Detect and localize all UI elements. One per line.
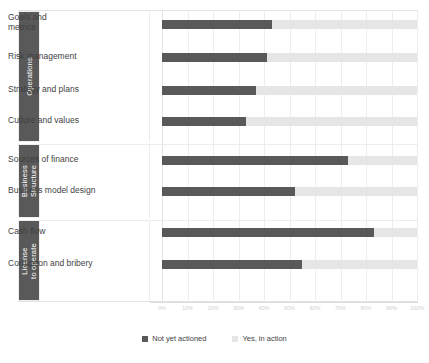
x-tick-label: 50% (284, 305, 295, 311)
x-tick-label: 40% (258, 305, 269, 311)
row-label: Culture and values (8, 115, 79, 125)
bar-segment-not-yet-actioned (162, 228, 374, 237)
bar-row (162, 117, 417, 126)
bar-row (162, 20, 417, 29)
row-label: Sources of finance (8, 154, 78, 164)
row-label: Business model design (8, 185, 95, 195)
gridline-100 (417, 10, 418, 302)
x-tick-label: 10% (182, 305, 193, 311)
group-separator (40, 220, 418, 221)
x-tick-label: 70% (335, 305, 346, 311)
bar-row (162, 228, 417, 237)
x-tick-label: 0% (158, 305, 166, 311)
x-tick-label: 80% (360, 305, 371, 311)
row-label: Risk management (8, 51, 77, 61)
legend-swatch-icon (142, 336, 148, 342)
legend-item[interactable]: Yes, in action (232, 334, 286, 343)
bar-row (162, 86, 417, 95)
row-label: Cash flow (8, 226, 45, 236)
x-axis-line (150, 302, 418, 303)
x-tick-label: 20% (207, 305, 218, 311)
bar-segment-not-yet-actioned (162, 260, 302, 269)
row-label: Goals and metrics (8, 12, 47, 32)
bar-segment-not-yet-actioned (162, 156, 348, 165)
group-separator (40, 144, 418, 145)
x-tick-label: 60% (309, 305, 320, 311)
chart-container: OperationsBusiness StructureLicense to o… (0, 0, 429, 363)
bar-segment-not-yet-actioned (162, 187, 295, 196)
row-label: Corruption and bribery (8, 258, 93, 268)
bar-row (162, 187, 417, 196)
bar-row (162, 53, 417, 62)
legend-label: Yes, in action (242, 334, 286, 343)
x-tick-label: 90% (386, 305, 397, 311)
bar-segment-not-yet-actioned (162, 86, 256, 95)
chart-legend: Not yet actionedYes, in action (0, 334, 429, 343)
bar-segment-not-yet-actioned (162, 20, 272, 29)
x-tick-label: 100% (410, 305, 424, 311)
bar-row (162, 156, 417, 165)
bar-segment-not-yet-actioned (162, 53, 267, 62)
bar-row (162, 260, 417, 269)
legend-swatch-icon (232, 336, 238, 342)
legend-label: Not yet actioned (152, 334, 206, 343)
legend-item[interactable]: Not yet actioned (142, 334, 206, 343)
bar-segment-not-yet-actioned (162, 117, 246, 126)
row-label: Strategy and plans (8, 84, 79, 94)
x-tick-label: 30% (233, 305, 244, 311)
